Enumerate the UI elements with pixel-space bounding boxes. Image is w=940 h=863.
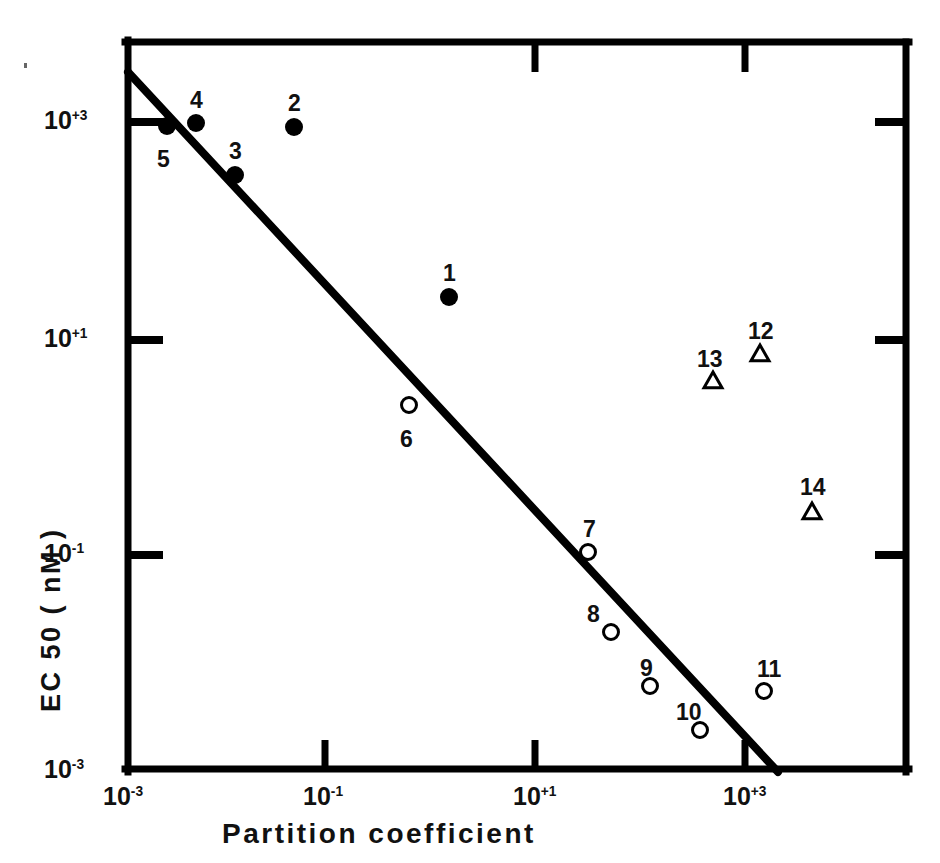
y-axis-ticks [128, 122, 163, 555]
scan-artifact-speck [24, 63, 27, 68]
chart-plot-area [0, 0, 940, 863]
data-point-label-5: 5 [157, 148, 170, 171]
x-tick-label-1: 10-1 [303, 784, 343, 809]
data-point-label-8: 8 [587, 603, 600, 626]
data-point-label-6: 6 [400, 428, 413, 451]
y-axis-ticks-right [875, 122, 906, 555]
data-point-12 [751, 345, 769, 361]
x-tick-label-3: 10+3 [723, 784, 767, 809]
data-point-7 [581, 545, 596, 560]
data-point-label-10: 10 [676, 701, 702, 724]
y-tick-label-0: 10+3 [44, 108, 88, 133]
axis-frame [125, 40, 909, 772]
data-point-14 [803, 503, 821, 519]
data-point-label-11: 11 [757, 658, 781, 681]
data-point-4 [187, 114, 205, 132]
data-point-5 [158, 117, 176, 135]
x-tick-label-2: 10+1 [513, 784, 557, 809]
y-tick-label-1: 10+1 [44, 326, 88, 351]
data-point-label-4: 4 [190, 89, 203, 112]
figure-container: 10+3 10+1 10-1 10-3 10-3 10-1 10+1 10+3 … [0, 0, 940, 863]
y-axis-title: EC 50 ( nM ) [38, 527, 65, 712]
data-point-label-1: 1 [443, 262, 456, 285]
x-axis-title: Partition coefficient [222, 820, 536, 848]
data-point-3 [226, 166, 244, 184]
y-axis-title-group: EC 50 ( nM ) [10, 300, 50, 720]
data-point-1 [440, 288, 458, 306]
data-point-label-3: 3 [229, 140, 242, 163]
data-point-label-9: 9 [640, 657, 653, 680]
data-point-label-14: 14 [800, 476, 826, 499]
data-point-2 [285, 118, 303, 136]
data-point-6 [402, 398, 417, 413]
x-tick-label-0: 10-3 [103, 784, 143, 809]
x-axis-ticks-top [535, 42, 745, 72]
regression-line [128, 72, 778, 772]
data-point-label-2: 2 [288, 92, 301, 115]
data-point-label-12: 12 [748, 320, 774, 343]
data-point-label-7: 7 [583, 518, 596, 541]
data-point-8 [604, 625, 619, 640]
y-tick-label-3: 10-3 [44, 757, 84, 782]
data-point-13 [704, 372, 722, 388]
x-axis-ticks [325, 740, 745, 769]
data-point-11 [757, 684, 772, 699]
data-point-label-13: 13 [697, 348, 723, 371]
